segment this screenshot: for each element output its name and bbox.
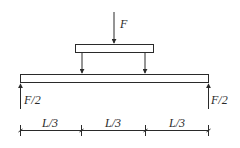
reaction-label-right: F/2 bbox=[210, 93, 228, 107]
four-point-bending-diagram: F F/2 F/2 L/3 L/3 L/3 bbox=[0, 0, 240, 148]
reaction-label-left: F/2 bbox=[23, 93, 41, 107]
loading-plate bbox=[76, 45, 154, 53]
beam bbox=[21, 75, 209, 83]
dimension-label-2: L/3 bbox=[104, 116, 121, 130]
applied-load-label: F bbox=[119, 17, 128, 31]
dimension-label-1: L/3 bbox=[41, 116, 58, 130]
dimension-label-3: L/3 bbox=[168, 116, 185, 130]
